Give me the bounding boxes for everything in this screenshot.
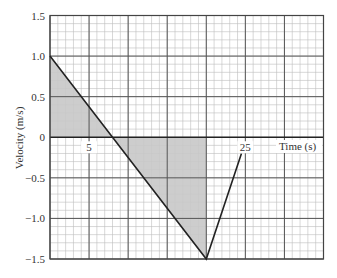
velocity-time-chart: 1.51.00.50−0.5−1.0−1.5525 Velocity (m/s)… — [0, 0, 337, 278]
x-tick-label: 5 — [86, 141, 92, 153]
x-tick-label: 25 — [240, 141, 252, 153]
y-tick-label: 1.5 — [31, 10, 45, 22]
x-axis-title: Time (s) — [279, 140, 317, 153]
y-tick-label: −1.5 — [25, 253, 45, 265]
y-tick-label: 0 — [40, 131, 46, 143]
y-axis-title: Velocity (m/s) — [13, 106, 26, 169]
y-tick-label: 1.0 — [31, 50, 45, 62]
y-tick-label: 0.5 — [31, 91, 45, 103]
y-tick-label: −0.5 — [25, 172, 45, 184]
y-tick-label: −1.0 — [25, 212, 45, 224]
